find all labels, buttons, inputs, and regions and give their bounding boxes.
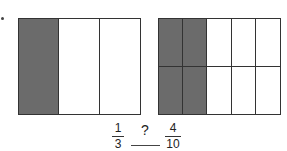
model-cell-shaded (183, 19, 207, 67)
comparison-symbol: ? (131, 123, 159, 137)
left-denominator: 3 (115, 138, 122, 151)
model-cell (207, 19, 231, 67)
model-cell (232, 67, 256, 115)
model-cell-shaded (183, 67, 207, 115)
model-cell (256, 67, 280, 115)
model-cell (207, 67, 231, 115)
model-cell (100, 19, 140, 114)
right-fraction: 4 10 (165, 122, 181, 151)
right-denominator: 10 (166, 138, 179, 151)
right-fraction-model (158, 18, 281, 115)
left-fraction: 1 3 (112, 122, 124, 151)
model-cell (232, 19, 256, 67)
model-cell (256, 19, 280, 67)
model-cell-shaded (19, 19, 59, 114)
model-cell (59, 19, 99, 114)
model-cell-shaded (159, 67, 183, 115)
bullet-marker (1, 17, 4, 20)
left-fraction-model (18, 18, 141, 115)
answer-blank-line (131, 145, 160, 146)
model-cell-shaded (159, 19, 183, 67)
right-numerator: 4 (170, 122, 177, 135)
left-numerator: 1 (115, 122, 122, 135)
